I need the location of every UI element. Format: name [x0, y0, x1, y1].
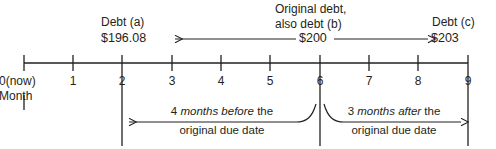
debt-b-caption-line2: also debt (b) — [275, 17, 342, 31]
tick-label-7: 7 — [349, 74, 389, 88]
debt-timeline-diagram: Debt (a) $196.08 Original debt, also deb… — [0, 0, 496, 149]
after-span-emphasis: months after — [357, 105, 421, 117]
before-span-count: 4 — [171, 105, 181, 117]
tick-label-8: 8 — [398, 74, 438, 88]
debt-b-caption-line1: Original debt, — [275, 2, 346, 16]
debt-b-amount: $200 — [299, 31, 327, 46]
tick-label-2: 2 — [102, 74, 142, 88]
axis-unit-label: Month — [0, 89, 69, 103]
after-span-line1: 3 months after the — [314, 105, 474, 119]
before-span-line1: 4 months before the — [142, 105, 302, 119]
debt-a-amount: $196.08 — [101, 31, 146, 46]
before-span-tail: the — [254, 105, 273, 117]
tick-label-6: 6 — [300, 74, 340, 88]
debt-c-caption: Debt (c) — [432, 15, 475, 29]
tick-label-5: 5 — [250, 74, 290, 88]
before-span-line2: original due date — [142, 124, 302, 138]
tick-label-3: 3 — [152, 74, 192, 88]
tick-label-9: 9 — [448, 74, 488, 88]
debt-a-caption: Debt (a) — [101, 15, 144, 29]
after-span-tail: the — [421, 105, 440, 117]
after-span-line2: original due date — [314, 124, 474, 138]
debt-c-amount: $203 — [431, 31, 459, 46]
tick-label-4: 4 — [201, 74, 241, 88]
before-span-emphasis: months before — [180, 105, 254, 117]
after-span-count: 3 — [348, 105, 358, 117]
tick-label-1: 1 — [53, 74, 93, 88]
